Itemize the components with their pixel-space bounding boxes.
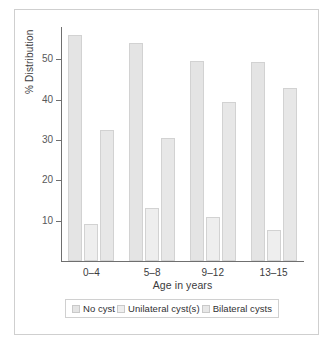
legend-swatch-icon <box>202 305 210 313</box>
y-axis-line <box>61 27 62 262</box>
y-axis-tick-label: 20 <box>42 173 53 186</box>
x-axis-title: Age in years <box>61 279 304 291</box>
x-axis-tick-label: 9–12 <box>202 267 225 278</box>
bar <box>129 43 143 261</box>
legend-swatch-icon <box>117 305 125 313</box>
y-axis-tick: 40 <box>56 100 61 101</box>
x-axis-line <box>61 261 304 262</box>
bar <box>100 130 114 261</box>
y-axis-tick-label: 40 <box>42 93 53 106</box>
y-axis-tick-label: 10 <box>42 214 53 227</box>
y-axis-tick: 10 <box>56 221 61 222</box>
y-axis-tick: 30 <box>56 140 61 141</box>
plot-area: 1020304050 0–45–89–1213–15 <box>61 27 304 262</box>
legend-label: No cyst <box>83 303 115 314</box>
bar <box>68 35 82 261</box>
y-axis-tick-label: 50 <box>42 52 53 65</box>
legend-label: Bilateral cysts <box>213 303 272 314</box>
y-axis-tick: 50 <box>56 59 61 60</box>
bar <box>283 88 297 261</box>
x-axis-tick-label: 5–8 <box>144 267 161 278</box>
x-axis-tick-label: 13–15 <box>259 267 287 278</box>
bar <box>267 230 281 261</box>
legend-item: No cyst <box>72 303 115 314</box>
x-axis-tick-label: 0–4 <box>83 267 100 278</box>
bar <box>161 138 175 261</box>
bar <box>84 224 98 261</box>
bar <box>222 102 236 261</box>
bar <box>251 62 265 261</box>
legend-item: Bilateral cysts <box>202 303 272 314</box>
y-axis-title: % Distribution <box>24 30 35 95</box>
legend-swatch-icon <box>72 305 80 313</box>
bar <box>206 217 220 261</box>
legend-item: Unilateral cyst(s) <box>117 303 200 314</box>
y-axis-tick: 20 <box>56 180 61 181</box>
legend-label: Unilateral cyst(s) <box>128 303 200 314</box>
y-axis-tick-label: 30 <box>42 133 53 146</box>
bar <box>145 208 159 261</box>
chart-legend: No cystUnilateral cyst(s)Bilateral cysts <box>65 299 279 318</box>
figure: % Distribution 1020304050 0–45–89–1213–1… <box>0 0 333 345</box>
bar <box>190 61 204 261</box>
